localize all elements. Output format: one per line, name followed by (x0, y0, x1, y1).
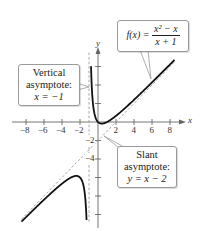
function-callout: f(x) = x² − x x + 1 (117, 20, 189, 52)
function-callout-pointer (140, 50, 151, 79)
y-tick-label: −2 (85, 135, 95, 145)
function-curve-right-branch (91, 60, 174, 124)
callout-line: Slant (118, 149, 176, 161)
callout-line: asymptote: (19, 79, 79, 91)
callout-line: Vertical (19, 67, 79, 79)
function-curve-left-branch (22, 176, 87, 222)
x-tick-label: 6 (150, 125, 155, 135)
y-axis-label: y (96, 38, 100, 48)
x-tick-label: −8 (20, 125, 30, 135)
x-tick-label: −2 (74, 125, 84, 135)
callout-equation: y = x − 2 (118, 173, 176, 185)
x-tick-label: 8 (168, 125, 173, 135)
x-tick-label: 4 (132, 125, 137, 135)
y-axis-arrow-icon (96, 47, 101, 54)
x-axis-arrow-icon (179, 120, 186, 125)
x-tick-label: 2 (114, 125, 119, 135)
slant-asymptote-callout: Slant asymptote: y = x − 2 (117, 146, 177, 188)
y-tick-label: −4 (85, 153, 95, 163)
function-denominator: x + 1 (152, 36, 180, 48)
function-fraction: x² − x x + 1 (152, 23, 180, 47)
callout-line: asymptote: (118, 161, 176, 173)
x-tick-label: −4 (56, 125, 66, 135)
function-lhs: f(x) = (126, 29, 149, 41)
x-tick-label: −6 (38, 125, 48, 135)
x-axis-label: x (188, 115, 192, 125)
function-numerator: x² − x (152, 23, 180, 36)
callout-equation: x = −1 (19, 91, 79, 103)
vertical-asymptote-callout: Vertical asymptote: x = −1 (18, 64, 80, 106)
